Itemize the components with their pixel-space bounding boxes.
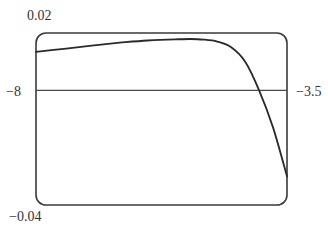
x-min-label: −8 <box>6 85 21 99</box>
y-max-label: 0.02 <box>27 9 52 23</box>
x-max-label: −3.5 <box>296 85 321 99</box>
y-min-label: −0.04 <box>9 210 41 224</box>
viewing-window-frame <box>36 33 287 205</box>
chart-canvas <box>0 0 328 226</box>
function-curve <box>36 39 287 176</box>
